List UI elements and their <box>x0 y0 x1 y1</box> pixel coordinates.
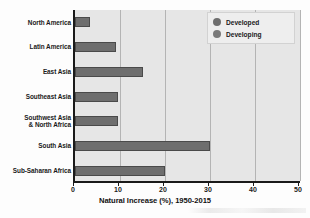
x-axis-title: Natural Increase (%), 1950-2015 <box>0 196 310 205</box>
category-label-line: North America <box>0 19 71 27</box>
bar-row <box>75 67 302 77</box>
x-tick-label: 40 <box>241 186 265 193</box>
bar <box>75 67 143 77</box>
bar-row <box>75 116 302 126</box>
legend-entry[interactable]: Developed <box>213 16 290 28</box>
x-tick-label: 20 <box>151 186 175 193</box>
chart-legend: DevelopedDeveloping <box>207 12 295 44</box>
legend-swatch-circle-icon <box>213 18 221 26</box>
category-label: Latin America <box>0 43 71 51</box>
bar <box>75 92 118 102</box>
chart-figure: North AmericaLatin AmericaEast AsiaSouth… <box>0 0 310 218</box>
x-tick-label: 0 <box>61 186 85 193</box>
category-label-line: Sub-Saharan Africa <box>0 167 71 175</box>
x-tick-label: 50 <box>286 186 310 193</box>
legend-label: Developed <box>226 19 259 26</box>
bar <box>75 166 165 176</box>
bar <box>75 141 210 151</box>
category-label: Sub-Saharan Africa <box>0 167 71 175</box>
category-label: Southeast Asia <box>0 93 71 101</box>
scan-artifact <box>188 208 306 213</box>
x-tick-label: 10 <box>106 186 130 193</box>
bar-row <box>75 92 302 102</box>
bar-row <box>75 166 302 176</box>
legend-label: Developing <box>226 31 262 38</box>
bar-row <box>75 141 302 151</box>
category-label: South Asia <box>0 142 71 150</box>
category-label-line: East Asia <box>0 68 71 76</box>
x-tick-label: 30 <box>196 186 220 193</box>
x-axis: 01020304050 <box>0 183 310 195</box>
bar <box>75 17 90 27</box>
category-label: East Asia <box>0 68 71 76</box>
category-label-line: Latin America <box>0 43 71 51</box>
category-label: North America <box>0 19 71 27</box>
bar <box>75 116 118 126</box>
bar <box>75 42 116 52</box>
category-label-line: South Asia <box>0 142 71 150</box>
category-label-line: Southeast Asia <box>0 93 71 101</box>
category-label-line: Southwest Asia <box>0 114 71 122</box>
category-label-line: & North Africa <box>0 121 71 129</box>
legend-entry[interactable]: Developing <box>213 28 290 40</box>
legend-swatch-circle-icon <box>213 30 221 38</box>
category-label: Southwest Asia& North Africa <box>0 114 71 129</box>
